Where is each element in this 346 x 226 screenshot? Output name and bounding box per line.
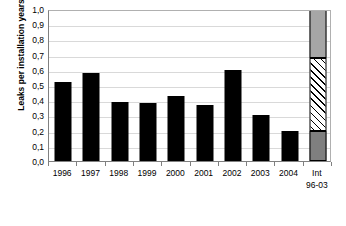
bar[interactable] <box>253 115 270 161</box>
bar-slot[interactable] <box>49 11 77 161</box>
x-axis-tick-label-line1: 2000 <box>166 168 185 178</box>
x-axis-tick-mark <box>246 162 247 166</box>
x-axis-tick-label: 1999 <box>138 168 157 180</box>
x-axis-tick-labels: 199619971998199920002001200220032004Int9… <box>48 168 331 218</box>
x-axis-tick-label: 2001 <box>194 168 213 180</box>
bar-slot[interactable] <box>134 11 162 161</box>
x-axis-tick-label: Int96-03 <box>306 168 328 191</box>
x-axis-tick-label-line1: 2004 <box>279 168 298 178</box>
x-axis-tick-mark <box>190 162 191 166</box>
bar-slot[interactable] <box>191 11 219 161</box>
x-axis-tick-label: 2003 <box>251 168 270 180</box>
x-axis-tick-label: 1997 <box>81 168 100 180</box>
bar-slot[interactable] <box>247 11 275 161</box>
x-axis-tick-mark <box>274 162 275 166</box>
x-axis-tick-label: 2000 <box>166 168 185 180</box>
x-axis-tick-mark <box>133 162 134 166</box>
y-axis-tick-label: 0,8 <box>22 35 44 45</box>
plot-area <box>48 10 331 162</box>
bar[interactable] <box>55 82 72 161</box>
bars-layer <box>49 11 330 161</box>
bar-segment-lower[interactable] <box>309 131 326 161</box>
bar[interactable] <box>83 73 100 161</box>
x-axis-tick-mark <box>76 162 77 166</box>
bar[interactable] <box>140 103 157 161</box>
stacked-bar[interactable] <box>309 10 326 161</box>
y-axis-tick-label: 0,6 <box>22 66 44 76</box>
bar-segment-middle[interactable] <box>309 58 326 131</box>
bar[interactable] <box>168 96 185 161</box>
bar-chart: Leaks per installation years 1,00,90,80,… <box>0 0 346 226</box>
bar-slot[interactable] <box>77 11 105 161</box>
x-axis-tick-label-line1: 1996 <box>53 168 72 178</box>
x-axis-tick-mark <box>48 162 49 166</box>
x-axis-tick-label-line2: 96-03 <box>306 180 328 192</box>
y-axis-tick-label: 0,3 <box>22 111 44 121</box>
y-axis-tick-label: 1,0 <box>22 5 44 15</box>
bar-slot[interactable] <box>304 11 331 161</box>
x-axis-tick-mark <box>105 162 106 166</box>
bar-slot[interactable] <box>106 11 134 161</box>
y-axis-tick-label: 0,1 <box>22 142 44 152</box>
x-axis-tick-label: 2002 <box>222 168 241 180</box>
x-axis-tick-label-line1: Int <box>312 168 321 178</box>
x-axis-tick-mark <box>218 162 219 166</box>
y-axis-tick-label: 0,9 <box>22 20 44 30</box>
x-axis-tick-mark <box>303 162 304 166</box>
bar[interactable] <box>196 105 213 161</box>
bar-slot[interactable] <box>275 11 303 161</box>
bar-segment-upper[interactable] <box>309 10 326 58</box>
x-axis-tick-label: 2004 <box>279 168 298 180</box>
bar-slot[interactable] <box>219 11 247 161</box>
bar[interactable] <box>281 131 298 161</box>
x-axis-tick-label: 1998 <box>109 168 128 180</box>
x-axis-tick-marks <box>48 162 331 167</box>
x-axis-tick-label-line1: 2001 <box>194 168 213 178</box>
y-axis-tick-label: 0,7 <box>22 51 44 61</box>
y-axis-tick-labels: 1,00,90,80,70,60,50,40,30,20,10,0 <box>22 10 44 162</box>
x-axis-tick-label-line1: 2003 <box>251 168 270 178</box>
x-axis-tick-mark <box>331 162 332 166</box>
x-axis-tick-label-line1: 1999 <box>138 168 157 178</box>
bar-slot[interactable] <box>162 11 190 161</box>
bar[interactable] <box>111 102 128 161</box>
bar[interactable] <box>224 70 241 161</box>
x-axis-tick-label-line1: 2002 <box>222 168 241 178</box>
x-axis-tick-label-line1: 1997 <box>81 168 100 178</box>
y-axis-tick-label: 0,0 <box>22 157 44 167</box>
x-axis-tick-mark <box>161 162 162 166</box>
y-axis-tick-label: 0,5 <box>22 81 44 91</box>
y-axis-tick-label: 0,2 <box>22 127 44 137</box>
x-axis-tick-label-line1: 1998 <box>109 168 128 178</box>
x-axis-tick-label: 1996 <box>53 168 72 180</box>
y-axis-tick-label: 0,4 <box>22 96 44 106</box>
